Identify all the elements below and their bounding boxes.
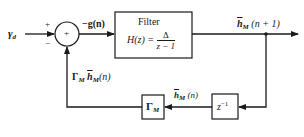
- filter-fraction: Δ z − 1: [157, 30, 176, 51]
- feedback-path-to-delay: [239, 34, 266, 107]
- feedback-label: ΓM hM(n): [72, 72, 111, 84]
- plus-sign-top: +: [45, 20, 50, 29]
- filter-transfer-function: H(z) = Δ z − 1: [127, 30, 175, 51]
- delay-block-label: z−1: [217, 101, 228, 112]
- summing-center-sign: +: [64, 29, 69, 38]
- input-label: γd: [8, 28, 16, 41]
- output-label: hM (n + 1): [237, 19, 280, 31]
- gain-block-label: ΓM: [146, 101, 159, 114]
- delayed-signal-label: hM (n): [174, 91, 198, 102]
- error-label: −g(n): [82, 19, 105, 29]
- filter-title: Filter: [138, 17, 160, 27]
- minus-sign-bottom: −: [45, 39, 50, 48]
